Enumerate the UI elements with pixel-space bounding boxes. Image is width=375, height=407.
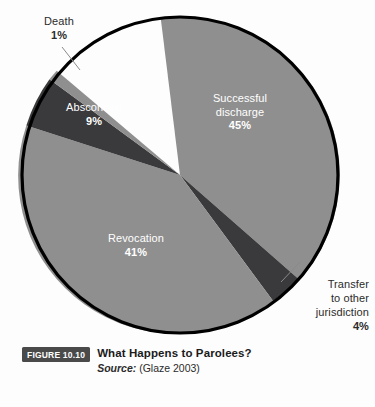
figure-source-value: (Glaze 2003) [139, 362, 200, 374]
slice-label-absconded-line1: Absconded [66, 101, 122, 113]
slice-callout-death-line1: Death [44, 15, 74, 27]
slice-label-absconded: Absconded 9% [42, 101, 146, 128]
slice-callout-transfer: Transfer to other jurisdiction 4% [283, 277, 369, 333]
slice-label-revocation-percent: 41% [84, 246, 188, 260]
slice-callout-transfer-percent: 4% [283, 319, 369, 333]
slice-callout-transfer-line3: jurisdiction [316, 306, 369, 318]
figure-source: Source: (Glaze 2003) [97, 361, 352, 375]
slice-label-successful-percent: 45% [196, 119, 284, 133]
slice-label-revocation: Revocation 41% [84, 232, 188, 259]
slice-label-successful-line1: Successful [213, 92, 267, 104]
figure-title: What Happens to Parolees? [97, 346, 352, 360]
slice-label-successful-line2: discharge [216, 106, 265, 118]
slice-label-absconded-percent: 9% [42, 115, 146, 129]
slice-callout-transfer-line2: to other [331, 292, 369, 304]
slice-label-revocation-line1: Revocation [108, 232, 164, 244]
slice-callout-transfer-line1: Transfer [328, 278, 369, 290]
figure-number-badge: FIGURE 10.10 [22, 347, 90, 362]
figure-container: Successful discharge 45% Revocation 41% … [0, 0, 375, 407]
figure-caption: FIGURE 10.10 What Happens to Parolees? S… [22, 346, 352, 375]
slice-callout-death: Death 1% [28, 14, 90, 42]
slice-label-successful-discharge: Successful discharge 45% [196, 92, 284, 133]
figure-source-label: Source: [97, 362, 136, 374]
slice-callout-death-percent: 1% [28, 28, 90, 42]
caption-text-block: What Happens to Parolees? Source: (Glaze… [97, 346, 352, 375]
